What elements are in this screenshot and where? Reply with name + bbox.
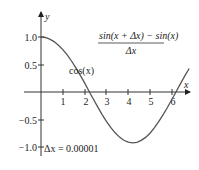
fraction-numerator: sin(x + Δx) − sin(x) [99,30,179,42]
x-tick-labels: 1 2 3 4 5 6 [61,96,176,107]
svg-text:1.0: 1.0 [25,32,38,43]
x-axis-label: x [183,79,189,90]
svg-text:2: 2 [84,96,89,107]
svg-text:5: 5 [149,96,154,107]
fraction-denominator: Δx [125,45,137,56]
y-axis-label: y [44,11,50,22]
cos-label: cos(x) [69,65,94,77]
svg-text:4: 4 [127,96,132,107]
cosine-derivative-chart: x y 1 2 3 4 5 6 1.0 0.5 −0.5 −1.0 sin(x … [0,0,199,170]
svg-text:−1.0: −1.0 [19,142,37,153]
svg-text:3: 3 [105,96,110,107]
svg-text:0.5: 0.5 [25,60,38,71]
svg-text:−0.5: −0.5 [19,115,37,126]
delta-label: Δx = 0.00001 [44,143,99,154]
svg-text:1: 1 [61,96,66,107]
